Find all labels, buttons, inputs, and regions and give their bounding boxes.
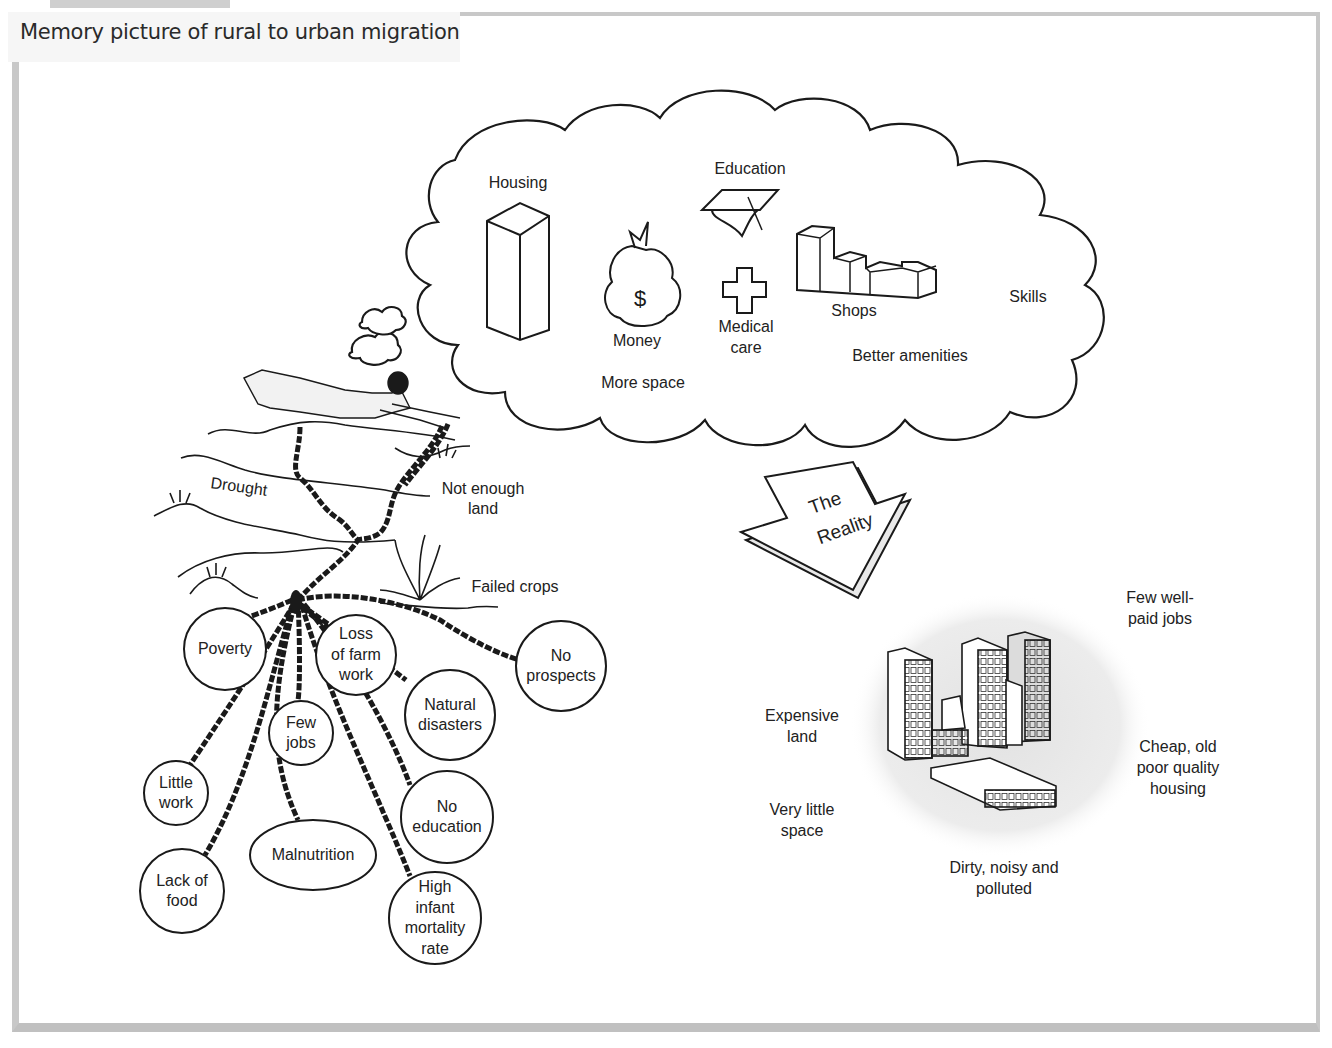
label-shops: Shops: [814, 300, 894, 321]
label-expensive-land: Expensive land: [752, 705, 852, 747]
dream-cloud: [349, 91, 1104, 447]
factor-no-education: No education: [401, 771, 493, 863]
chain-knot: [290, 590, 302, 614]
migrant-figure-icon: [244, 370, 460, 428]
label-skills: Skills: [995, 286, 1061, 307]
label-education: Education: [700, 158, 800, 179]
label-more-space: More space: [588, 372, 698, 393]
label-few-well-paid-jobs: Few well- paid jobs: [1110, 587, 1210, 629]
label-cheap-housing: Cheap, old poor quality housing: [1122, 736, 1234, 799]
factor-natural-disasters: Natural disasters: [405, 670, 495, 760]
factor-few-jobs: Few jobs: [269, 701, 333, 765]
tall-building-icon: [487, 203, 549, 340]
factor-lack-of-food: Lack of food: [140, 849, 224, 933]
factor-malnutrition: Malnutrition: [250, 820, 376, 890]
label-housing: Housing: [478, 172, 558, 193]
label-very-little-space: Very little space: [752, 799, 852, 841]
label-dirty-noisy-polluted: Dirty, noisy and polluted: [934, 857, 1074, 899]
label-money: Money: [597, 330, 677, 351]
factor-poverty: Poverty: [184, 608, 266, 690]
label-medical-care: Medical care: [706, 316, 786, 358]
factor-little-work: Little work: [144, 761, 208, 825]
label-failed-crops: Failed crops: [465, 576, 565, 597]
svg-text:$: $: [634, 286, 646, 311]
label-not-enough-land: Not enough land: [430, 479, 536, 519]
factor-high-infant-mortality: High infant mortality rate: [389, 872, 481, 964]
factor-loss-of-farm-work: Loss of farm work: [316, 615, 396, 695]
label-better-amenities: Better amenities: [840, 345, 980, 366]
factor-no-prospects: No prospects: [516, 621, 606, 711]
